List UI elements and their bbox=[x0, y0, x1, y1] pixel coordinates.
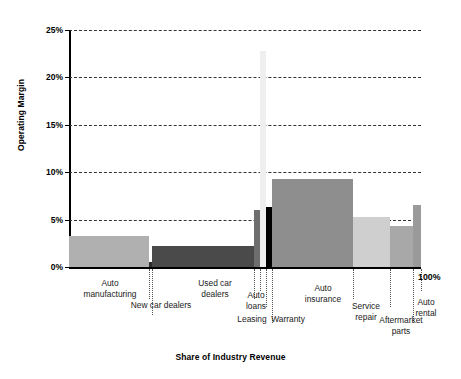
category-label-auto-rental: Auto rental bbox=[402, 297, 450, 318]
category-label-new-car-dealers: New car dealers bbox=[116, 300, 206, 311]
category-label-warranty: Warranty bbox=[264, 314, 312, 325]
y-tick-mark bbox=[65, 267, 70, 268]
plot-area: 0%5%10%15%20%25% bbox=[69, 30, 421, 267]
y-tick-mark bbox=[65, 172, 70, 173]
y-tick-mark bbox=[65, 220, 70, 221]
bar-leasing bbox=[260, 51, 267, 267]
x-axis-title: Share of Industry Revenue bbox=[0, 352, 461, 362]
category-label-auto-loans: Auto loans bbox=[236, 290, 276, 311]
y-tick-label: 0% bbox=[51, 262, 63, 272]
y-tick-mark bbox=[65, 77, 70, 78]
bar-used-car-dealers bbox=[152, 246, 254, 267]
gridline-15 bbox=[69, 125, 421, 126]
y-tick-label: 20% bbox=[46, 72, 63, 82]
bar-auto-insurance bbox=[272, 179, 353, 267]
bar-auto-manufacturing bbox=[69, 236, 149, 267]
x-axis-end-label: 100% bbox=[418, 272, 441, 282]
y-tick-label: 15% bbox=[46, 120, 63, 130]
y-tick-label: 5% bbox=[51, 215, 63, 225]
y-axis-title: Operating Margin bbox=[16, 60, 26, 170]
gridline-10 bbox=[69, 172, 421, 173]
y-tick-mark bbox=[65, 30, 70, 31]
bar-service-repair bbox=[353, 217, 390, 267]
marimekko-chart: Operating Margin 0%5%10%15%20%25% Auto m… bbox=[0, 0, 461, 379]
gridline-20 bbox=[69, 77, 421, 78]
gridline-25 bbox=[69, 30, 421, 31]
y-tick-label: 10% bbox=[46, 167, 63, 177]
x-divider bbox=[260, 269, 261, 291]
category-label-aftermarket-parts: Aftermarket parts bbox=[368, 315, 434, 336]
bar-aftermarket-parts bbox=[390, 226, 413, 267]
y-axis-line bbox=[69, 30, 71, 267]
x-axis-line bbox=[69, 267, 421, 269]
bar-auto-rental bbox=[413, 205, 421, 267]
category-label-auto-manufacturing: Auto manufacturing bbox=[70, 278, 150, 299]
y-tick-mark bbox=[65, 125, 70, 126]
y-tick-label: 25% bbox=[46, 25, 63, 35]
